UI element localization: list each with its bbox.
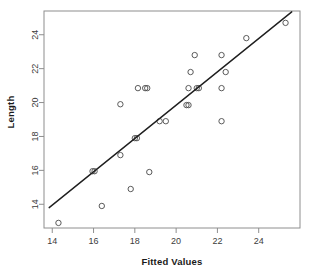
scatter-plot-figure: 141618202224 141618202224 Fitted Values … [0, 0, 309, 274]
y-tick-label: 16 [30, 165, 40, 175]
x-tick-label: 20 [171, 236, 181, 246]
data-point-marker [188, 69, 193, 74]
y-axis-ticks [39, 35, 44, 205]
x-axis-title: Fitted Values [141, 256, 202, 267]
y-tick-label: 14 [30, 199, 40, 209]
x-tick-label: 14 [47, 236, 57, 246]
data-point-marker [99, 203, 104, 208]
y-tick-label: 22 [30, 64, 40, 74]
data-point-marker [56, 220, 61, 225]
y-tick-label: 20 [30, 98, 40, 108]
y-axis-tick-labels: 141618202224 [30, 30, 40, 210]
data-points-layer [56, 20, 288, 225]
plot-canvas: 141618202224 141618202224 Fitted Values … [0, 0, 309, 274]
x-tick-label: 16 [89, 236, 99, 246]
data-point-marker [186, 85, 191, 90]
data-point-marker [219, 85, 224, 90]
data-point-marker [244, 35, 249, 40]
data-point-marker [223, 69, 228, 74]
data-point-marker [147, 169, 152, 174]
data-point-marker [118, 102, 123, 107]
data-point-marker [219, 118, 224, 123]
x-axis-tick-labels: 141618202224 [47, 236, 263, 246]
data-point-marker [163, 118, 168, 123]
y-tick-label: 24 [30, 30, 40, 40]
x-axis-ticks [52, 228, 258, 233]
x-tick-label: 24 [254, 236, 264, 246]
data-point-marker [192, 52, 197, 57]
plot-frame [44, 11, 300, 228]
data-point-marker [283, 20, 288, 25]
y-tick-label: 18 [30, 131, 40, 141]
data-point-marker [135, 85, 140, 90]
regression-line [49, 12, 292, 208]
data-point-marker [128, 186, 133, 191]
y-axis-title: Length [5, 96, 16, 129]
data-point-marker [118, 152, 123, 157]
x-tick-label: 22 [212, 236, 222, 246]
fit-line-segment [49, 12, 292, 208]
data-point-marker [219, 52, 224, 57]
x-tick-label: 18 [130, 236, 140, 246]
